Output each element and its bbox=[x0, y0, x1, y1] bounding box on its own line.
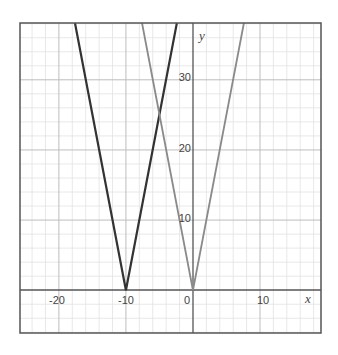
x-tick-label-0: 0 bbox=[184, 294, 190, 306]
x-tick-label-neg10: -10 bbox=[118, 294, 134, 306]
x-axis-title: x bbox=[304, 291, 311, 306]
y-tick-label-10: 10 bbox=[179, 212, 191, 224]
x-tick-label-neg20: -20 bbox=[49, 294, 65, 306]
x-tick-label-10: 10 bbox=[257, 294, 269, 306]
y-axis-title: y bbox=[197, 28, 205, 43]
chart-plot-area: -20 -10 0 10 10 20 30 x y bbox=[0, 0, 338, 355]
series-layer bbox=[75, 23, 244, 290]
minor-gridlines bbox=[20, 23, 321, 333]
y-tick-label-30: 30 bbox=[179, 71, 191, 83]
y-tick-label-20: 20 bbox=[179, 142, 191, 154]
